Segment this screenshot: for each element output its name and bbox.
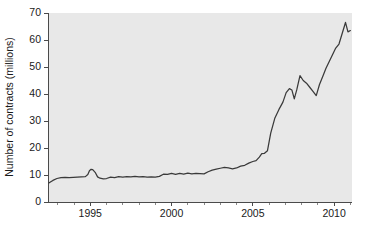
y-tick-label: 70 [29,6,41,18]
x-tick-label: 1995 [79,207,103,219]
y-tick-label: 40 [29,87,41,99]
y-tick-label: 0 [35,195,41,207]
line-chart: 010203040506070 1995200020052010 Number … [0,0,365,235]
y-tick-label: 30 [29,114,41,126]
x-tick-label: 2010 [322,207,346,219]
y-tick-label: 50 [29,60,41,72]
y-tick-label: 60 [29,33,41,45]
x-tick-label: 2000 [160,207,184,219]
x-tick-label: 2005 [241,207,265,219]
y-tick-label: 10 [29,168,41,180]
chart-figure: 010203040506070 1995200020052010 Number … [0,0,365,235]
y-tick-label: 20 [29,141,41,153]
y-axis-title: Number of contracts (millions) [3,37,15,176]
